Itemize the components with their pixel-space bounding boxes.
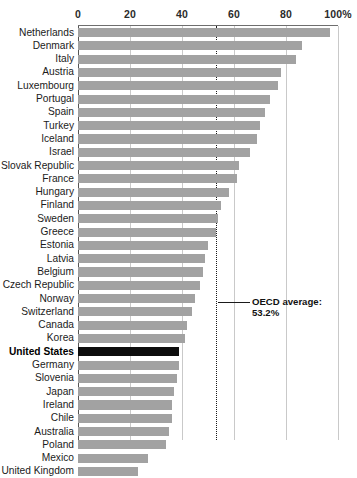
- bar[interactable]: [78, 254, 205, 263]
- bar-row[interactable]: Greece: [0, 226, 357, 239]
- bar[interactable]: [78, 108, 265, 117]
- bar[interactable]: [78, 55, 296, 64]
- x-axis-tick-labels: 0 20 40 60 80 100%: [0, 8, 357, 24]
- x-tick-20: 20: [124, 8, 136, 20]
- bar[interactable]: [78, 387, 174, 396]
- bar[interactable]: [78, 241, 208, 250]
- bar[interactable]: [78, 134, 257, 143]
- bar-row[interactable]: Czech Republic: [0, 279, 357, 292]
- oecd-average-annotation: OECD average: 53.2%: [252, 296, 352, 319]
- bar-row-label: Slovak Republic: [1, 160, 74, 172]
- bar[interactable]: [78, 467, 138, 476]
- bar-row-label: Japan: [46, 386, 74, 398]
- bar-row-label: Mexico: [42, 452, 74, 464]
- bar-row-label: Korea: [47, 332, 74, 344]
- bar[interactable]: [78, 41, 302, 50]
- bar-row[interactable]: France: [0, 172, 357, 185]
- bar-row[interactable]: Chile: [0, 412, 357, 425]
- bar[interactable]: [78, 161, 239, 170]
- bar[interactable]: [78, 347, 179, 356]
- bar-row[interactable]: Spain: [0, 106, 357, 119]
- bar[interactable]: [78, 281, 200, 290]
- bar-row-label: Poland: [42, 439, 74, 451]
- bar-row[interactable]: United States: [0, 345, 357, 358]
- bar-row[interactable]: Estonia: [0, 239, 357, 252]
- x-tick-80: 80: [280, 8, 292, 20]
- bar-row[interactable]: Slovak Republic: [0, 159, 357, 172]
- bar-row-label: Belgium: [37, 266, 74, 278]
- bar-row[interactable]: Denmark: [0, 39, 357, 52]
- bar[interactable]: [78, 334, 185, 343]
- bar-row-label: Spain: [48, 106, 74, 118]
- bar-row[interactable]: Italy: [0, 53, 357, 66]
- bar[interactable]: [78, 400, 172, 409]
- x-tick-100: 100%: [324, 8, 351, 20]
- bar-row-label: Netherlands: [19, 27, 74, 39]
- bar-row-label: Estonia: [40, 239, 74, 251]
- bar-row-label: Finland: [41, 199, 74, 211]
- bar[interactable]: [78, 361, 179, 370]
- bar[interactable]: [78, 267, 203, 276]
- bar-row[interactable]: United Kingdom: [0, 465, 357, 478]
- bar-row-label: Czech Republic: [3, 279, 74, 291]
- bar-row[interactable]: Netherlands: [0, 26, 357, 39]
- bar-row-label: Sweden: [37, 213, 74, 225]
- bar-row[interactable]: Israel: [0, 146, 357, 159]
- bar-row[interactable]: Mexico: [0, 452, 357, 465]
- bar[interactable]: [78, 414, 172, 423]
- bar[interactable]: [78, 228, 216, 237]
- annotation-leader-line: [218, 302, 250, 303]
- bar-row-label: United States: [9, 346, 74, 358]
- bar[interactable]: [78, 374, 177, 383]
- bar-row-label: Chile: [51, 412, 74, 424]
- bar-row[interactable]: Ireland: [0, 398, 357, 411]
- bar-row[interactable]: Sweden: [0, 212, 357, 225]
- bar-row[interactable]: Belgium: [0, 265, 357, 278]
- bar-row-label: Hungary: [35, 186, 74, 198]
- bar-row-label: Ireland: [43, 399, 74, 411]
- bar-row-label: Greece: [41, 226, 74, 238]
- bar-row[interactable]: Korea: [0, 332, 357, 345]
- bar-row-label: Turkey: [43, 120, 74, 132]
- bar-row[interactable]: Poland: [0, 438, 357, 451]
- bar[interactable]: [78, 81, 278, 90]
- bar[interactable]: [78, 95, 270, 104]
- bar[interactable]: [78, 121, 260, 130]
- bar[interactable]: [78, 201, 221, 210]
- bar-row[interactable]: Austria: [0, 66, 357, 79]
- bar-row[interactable]: Japan: [0, 385, 357, 398]
- bar-row[interactable]: Portugal: [0, 93, 357, 106]
- bar-row-label: Italy: [55, 53, 74, 65]
- bar-row[interactable]: Germany: [0, 359, 357, 372]
- bar-row[interactable]: Australia: [0, 425, 357, 438]
- bar-row[interactable]: Latvia: [0, 252, 357, 265]
- bar[interactable]: [78, 440, 166, 449]
- bar[interactable]: [78, 68, 281, 77]
- bar[interactable]: [78, 28, 330, 37]
- bar[interactable]: [78, 294, 195, 303]
- bar-row-label: Portugal: [36, 93, 74, 105]
- bar-row-label: Luxembourg: [17, 80, 74, 92]
- bar[interactable]: [78, 148, 250, 157]
- x-tick-0: 0: [75, 8, 81, 20]
- bar-row[interactable]: Slovenia: [0, 372, 357, 385]
- bar[interactable]: [78, 174, 237, 183]
- bar-row[interactable]: Turkey: [0, 119, 357, 132]
- bar-row[interactable]: Luxembourg: [0, 79, 357, 92]
- bar[interactable]: [78, 454, 148, 463]
- bar-row-label: Switzerland: [21, 306, 74, 318]
- bar-row-label: Denmark: [33, 40, 74, 52]
- bar[interactable]: [78, 307, 192, 316]
- bar-row-label: Israel: [49, 146, 74, 158]
- bar-row[interactable]: Finland: [0, 199, 357, 212]
- bar-rows: NetherlandsDenmarkItalyAustriaLuxembourg…: [0, 26, 357, 440]
- bar-row[interactable]: Hungary: [0, 186, 357, 199]
- bar-row-label: Austria: [42, 66, 74, 78]
- bar[interactable]: [78, 321, 187, 330]
- bar[interactable]: [78, 214, 218, 223]
- bar-row[interactable]: Canada: [0, 319, 357, 332]
- bar[interactable]: [78, 188, 229, 197]
- bar-row[interactable]: Iceland: [0, 132, 357, 145]
- bar[interactable]: [78, 427, 169, 436]
